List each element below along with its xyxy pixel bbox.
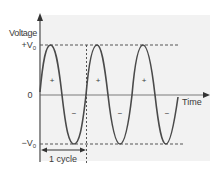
negative-peak-label: −V0 [21,138,36,149]
positive-peak-label: +V0 [21,40,36,51]
plot-background [41,15,210,161]
half-cycle-sign: + [50,76,55,85]
half-cycle-sign: + [142,76,147,85]
half-cycle-sign: − [165,109,170,118]
half-cycle-sign: + [96,76,101,85]
half-cycle-sign: − [118,109,123,118]
half-cycle-sign: − [72,109,77,118]
cycle-label: 1 cycle [49,154,77,164]
voltage-axis-label: Voltage [9,28,37,38]
time-axis-label: Time [182,97,202,107]
zero-label: 0 [27,90,32,100]
sine-wave-diagram: + − + − + − Voltage Time +V0 0 −V0 1 cyc… [0,0,217,172]
